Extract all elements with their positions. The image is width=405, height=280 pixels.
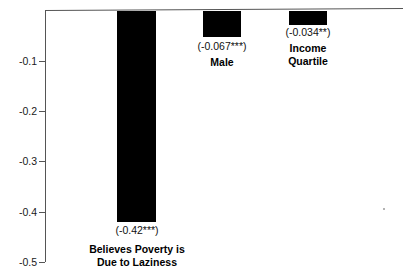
y-tick-label-4: -0.5 bbox=[3, 257, 37, 268]
bar-value-label-income-quartile: (-0.034**) bbox=[258, 26, 358, 38]
y-tick-mark-4 bbox=[39, 262, 45, 263]
y-tick-label-1: -0.2 bbox=[3, 106, 37, 117]
regression-coefficient-bar-chart: Regression Coefficient -0.1 -0.2 -0.3 -0… bbox=[0, 0, 405, 280]
y-tick-mark-3 bbox=[39, 212, 45, 213]
bar-income-quartile bbox=[289, 11, 327, 25]
y-tick-mark-0 bbox=[39, 61, 45, 62]
y-tick-label-2: -0.3 bbox=[3, 156, 37, 167]
bar-value-label-male: (-0.067***) bbox=[172, 40, 272, 52]
y-tick-label-wrap-2: -0.3 bbox=[0, 156, 37, 167]
bar-believes-poverty-due-to-laziness bbox=[117, 11, 156, 222]
bar-category-label-income-quartile: Income Quartile bbox=[268, 42, 348, 67]
bar-male bbox=[203, 11, 241, 37]
y-tick-label-wrap-0: -0.1 bbox=[0, 56, 37, 67]
y-tick-mark-2 bbox=[39, 161, 45, 162]
y-tick-mark-1 bbox=[39, 111, 45, 112]
bar-category-label-male: Male bbox=[182, 56, 262, 69]
y-tick-label-wrap-3: -0.4 bbox=[0, 207, 37, 218]
y-axis-line bbox=[45, 11, 46, 262]
y-tick-label-3: -0.4 bbox=[3, 207, 37, 218]
scan-artifact-speck bbox=[383, 208, 385, 210]
y-tick-label-wrap-1: -0.2 bbox=[0, 106, 37, 117]
y-tick-label-0: -0.1 bbox=[3, 56, 37, 67]
bar-value-label-believes-poverty-due-to-laziness: (-0.42***) bbox=[82, 224, 192, 236]
bar-category-label-believes-poverty-due-to-laziness: Believes Poverty is Due to Laziness bbox=[76, 243, 198, 268]
y-tick-label-wrap-4: -0.5 bbox=[0, 257, 37, 268]
